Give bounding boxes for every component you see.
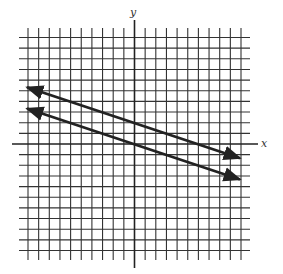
- y-axis-label: y: [130, 6, 136, 19]
- coordinate-plane: [0, 0, 283, 274]
- x-axis-label: x: [261, 137, 267, 150]
